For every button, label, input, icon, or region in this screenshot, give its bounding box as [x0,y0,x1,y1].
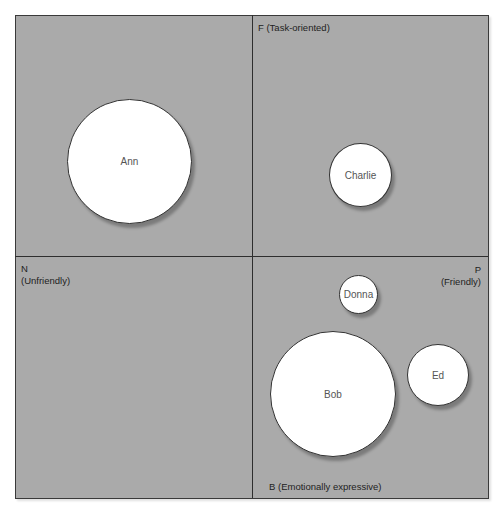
horizontal-axis-line [15,256,488,257]
axis-label-right-letter: P [441,264,481,276]
bubble-label: Ann [121,156,139,167]
bubble-label: Ed [432,370,444,381]
axis-label-left-letter: N [21,263,70,275]
bubble-label: Bob [324,389,342,400]
axis-label-top: F (Task-oriented) [258,22,330,34]
bubble-charlie: Charlie [329,143,392,207]
bubble-donna: Donna [339,275,378,314]
axis-label-right-text: (Friendly) [441,276,481,288]
axis-label-bottom: B (Emotionally expressive) [269,481,381,493]
axis-label-left-text: (Unfriendly) [21,275,70,287]
bubble-bob: Bob [270,331,396,457]
bubble-label: Donna [344,289,373,300]
bubble-ann: Ann [67,99,192,224]
axis-label-right: P (Friendly) [441,264,481,288]
axis-label-left: N (Unfriendly) [21,263,70,287]
bubble-label: Charlie [345,170,377,181]
bubble-ed: Ed [407,344,469,406]
